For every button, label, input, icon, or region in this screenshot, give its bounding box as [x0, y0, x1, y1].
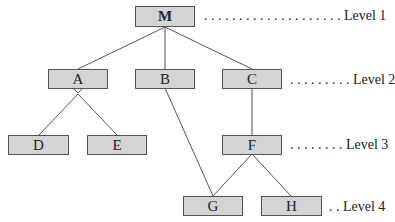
node-e-label: E [112, 137, 121, 154]
edge-m-a [78, 27, 165, 69]
node-h: H [261, 196, 322, 216]
node-g: G [183, 196, 243, 216]
node-e: E [87, 135, 147, 155]
edge-m-c [165, 27, 252, 69]
edge-a-d [39, 94, 78, 135]
level-2-label: . . . . . . . . . Level 2 [290, 72, 395, 88]
level-3-label: . . . . . . . . Level 3 [290, 137, 388, 153]
level-1-label: . . . . . . . . . . . . . . . . . . . . … [204, 8, 386, 24]
node-a-label: A [73, 71, 84, 88]
node-b-label: B [160, 71, 170, 88]
node-m-label: M [158, 8, 172, 25]
edge-f-g [213, 154, 252, 196]
level-4-label: . . Level 4 [329, 199, 385, 215]
node-g-label: G [208, 198, 219, 215]
edge-b-g [165, 88, 213, 196]
edge-a-e [78, 94, 117, 135]
node-f-label: F [248, 137, 256, 154]
node-m: M [135, 6, 195, 27]
node-f: F [222, 135, 282, 155]
node-c-label: C [247, 71, 257, 88]
node-d: D [8, 135, 69, 155]
node-b: B [135, 69, 195, 89]
node-d-label: D [33, 137, 44, 154]
node-a: A [48, 69, 108, 89]
node-h-label: H [286, 198, 297, 215]
node-c: C [222, 69, 282, 89]
edge-f-h [252, 154, 291, 196]
